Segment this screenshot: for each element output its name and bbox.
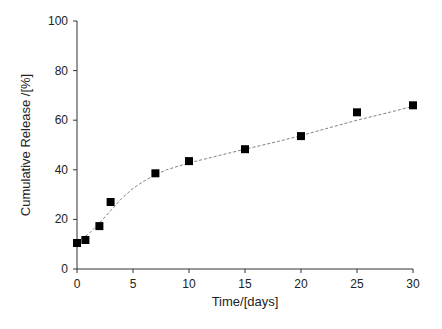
fit-curve-path xyxy=(77,106,413,241)
x-tick-label: 20 xyxy=(294,277,308,291)
y-tick-label: 0 xyxy=(61,262,68,276)
x-tick-label: 15 xyxy=(238,277,252,291)
data-point-marker xyxy=(297,132,305,140)
x-tick-label: 5 xyxy=(130,277,137,291)
y-tick-label: 80 xyxy=(55,64,69,78)
data-point-marker xyxy=(95,222,103,230)
data-points xyxy=(73,101,417,247)
x-tick-label: 30 xyxy=(406,277,420,291)
y-tick-label: 20 xyxy=(55,212,69,226)
data-point-marker xyxy=(151,169,159,177)
data-point-marker xyxy=(185,157,193,165)
y-tick-label: 100 xyxy=(48,14,68,28)
data-point-marker xyxy=(73,239,81,247)
data-point-marker xyxy=(107,198,115,206)
data-point-marker xyxy=(81,236,89,244)
axes: 020406080100051015202530 xyxy=(48,14,420,291)
x-axis-title: Time/[days] xyxy=(212,294,279,309)
release-chart: 020406080100051015202530 Time/[days] Cum… xyxy=(0,0,442,329)
x-tick-label: 10 xyxy=(182,277,196,291)
x-tick-label: 0 xyxy=(74,277,81,291)
x-tick-label: 25 xyxy=(350,277,364,291)
fit-curve xyxy=(77,106,413,241)
y-axis-title: Cumulative Release /[%] xyxy=(18,74,33,216)
data-point-marker xyxy=(409,101,417,109)
data-point-marker xyxy=(353,108,361,116)
y-tick-label: 60 xyxy=(55,113,69,127)
y-tick-label: 40 xyxy=(55,163,69,177)
data-point-marker xyxy=(241,145,249,153)
